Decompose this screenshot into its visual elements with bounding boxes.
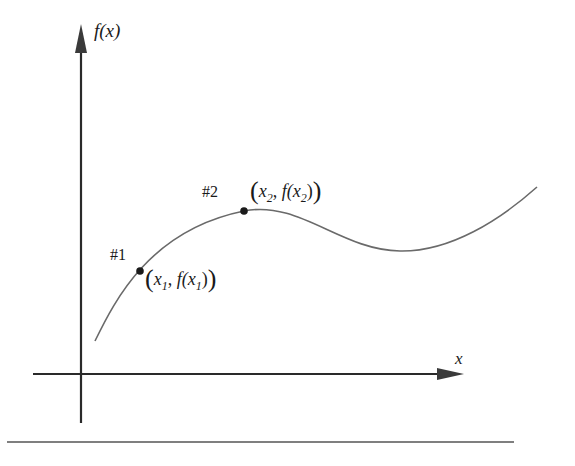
diagram-canvas (0, 0, 575, 466)
point-1-marker (136, 267, 144, 275)
point-1-coordinate: (x1, f(x1)) (145, 262, 216, 292)
point-2-marker (240, 207, 248, 215)
y-axis-arrow-icon (75, 24, 87, 53)
point-2-coordinate: (x2, f(x2)) (250, 174, 321, 204)
x-axis-label: x (455, 349, 463, 369)
point-2-label: #2 (202, 183, 218, 201)
point-1-label: #1 (110, 246, 126, 264)
x-axis-arrow-icon (437, 368, 464, 380)
y-axis-label: f(x) (94, 20, 120, 42)
